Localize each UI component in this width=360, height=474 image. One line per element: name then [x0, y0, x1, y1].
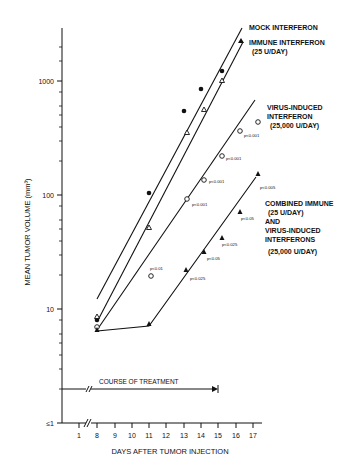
p-virus-d11: p<0.01	[150, 266, 164, 271]
y-tick-labels: 1000 100 10 ≤1	[38, 78, 54, 427]
y-axis	[57, 28, 62, 423]
combined-label-5: INTERFERONS	[265, 236, 316, 243]
y-tick-1: ≤1	[46, 420, 54, 427]
p-combined-d13: p<0.025	[190, 276, 206, 281]
virus-line	[97, 100, 255, 330]
series-labels: MOCK INTERFERON IMMUNE INTERFERON (25 U/…	[249, 24, 334, 256]
mock-label: MOCK INTERFERON	[249, 24, 318, 31]
p-values: p<0.01 p<0.001 p<0.001 p<0.001 p<0.001 p…	[150, 133, 276, 281]
p-virus-d13: p<0.001	[192, 202, 208, 207]
p-virus-d16: p<0.001	[244, 133, 260, 138]
x-tick-1: 1	[77, 432, 81, 439]
x-tick-9: 9	[113, 432, 117, 439]
p-combined-d14: p<0.05	[207, 256, 221, 261]
combined-label-3: AND	[265, 218, 280, 225]
x-tick-17: 17	[249, 432, 257, 439]
mock-line	[97, 28, 242, 299]
mock-points	[95, 69, 225, 323]
tumor-volume-chart: 1000 100 10 ≤1 MEAN TUMOR VOLUME (mm³) 1…	[0, 0, 360, 474]
x-axis-label: DAYS AFTER TUMOR INJECTION	[111, 447, 228, 456]
x-tick-15: 15	[214, 432, 222, 439]
virus-label-1: VIRUS-INDUCED	[267, 104, 323, 111]
combined-label-2: (25 U/DAY)	[268, 209, 304, 217]
combined-points	[95, 171, 261, 332]
x-axis	[62, 419, 262, 428]
immune-label: IMMUNE INTERFERON	[249, 39, 325, 46]
combined-dose-label: (25,000 U/DAY)	[268, 248, 317, 256]
x-tick-8: 8	[95, 432, 99, 439]
x-tick-13: 13	[180, 432, 188, 439]
virus-dose-label: (25,000 U/DAY)	[270, 122, 319, 130]
fit-lines	[97, 28, 256, 331]
y-tick-100: 100	[42, 192, 54, 199]
immune-dose-label: (25 U/DAY)	[252, 48, 288, 56]
y-axis-label: MEAN TUMOR VOLUME (mm³)	[23, 178, 32, 285]
x-tick-14: 14	[197, 432, 205, 439]
course-of-treatment	[62, 385, 218, 393]
x-tick-12: 12	[162, 432, 170, 439]
y-tick-10: 10	[46, 306, 54, 313]
p-combined-d15: p<0.025	[222, 242, 238, 247]
p-virus-d15: p<0.001	[226, 156, 242, 161]
virus-label-2: INTERFERON	[267, 113, 313, 120]
x-tick-10: 10	[128, 432, 136, 439]
p-combined-d16: p<0.05	[241, 216, 255, 221]
x-tick-labels: 1 8 9 10 11 12 13 14 15 16 17	[77, 432, 257, 439]
y-tick-1000: 1000	[38, 78, 54, 85]
combined-label-1: COMBINED IMMUNE	[265, 200, 334, 207]
x-tick-16: 16	[232, 432, 240, 439]
p-virus-d14: p<0.001	[209, 179, 225, 184]
immune-legend-marker	[238, 38, 244, 43]
x-tick-11: 11	[145, 432, 152, 439]
course-of-treatment-label: COURSE OF TREATMENT	[99, 378, 179, 385]
p-combined-d17: p<0.005	[260, 185, 276, 190]
combined-label-4: VIRUS-INDUCED	[265, 227, 321, 234]
